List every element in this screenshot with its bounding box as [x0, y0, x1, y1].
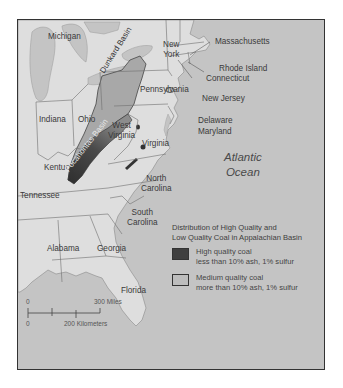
scale-miles-zero: 0 — [26, 298, 30, 305]
state-label-maryland: Maryland — [198, 127, 232, 137]
legend-item-high-quality: High quality coal less than 10% ash, 1% … — [172, 247, 294, 266]
ocean-line2: Ocean — [224, 165, 262, 180]
state-label-north-carolina: NorthCarolina — [141, 174, 172, 194]
state-label-rhode-island: Rhode Island — [219, 64, 267, 74]
legend-item-detail: more than 10% ash, 1% sulfur — [196, 283, 298, 293]
label-line1: New — [163, 40, 179, 50]
state-label-alabama: Alabama — [47, 244, 79, 254]
legend-item-detail: less than 10% ash, 1% sulfur — [196, 257, 294, 267]
map-frame: MichiganIndianaOhioKentuckyTennesseePenn… — [17, 19, 325, 370]
state-label-delaware: Delaware — [198, 116, 233, 126]
state-label-new-york: NewYork — [163, 40, 179, 60]
label-line2: Virginia — [108, 131, 135, 141]
label-line1: North — [141, 174, 172, 184]
state-label-indiana: Indiana — [39, 115, 66, 125]
label-line1: West — [108, 121, 135, 131]
scale-km-label: 200 Kilometers — [64, 320, 107, 327]
legend-item-label: Medium quality coal — [196, 273, 298, 283]
label-line2: Carolina — [127, 218, 158, 228]
state-label-west-virginia: WestVirginia — [108, 121, 135, 141]
scale-km-zero: 0 — [26, 320, 30, 327]
state-label-massachusetts: Massachusetts — [215, 37, 270, 47]
legend-title-line2: Low Quality Coal in Appalachian Basin — [172, 233, 302, 243]
state-label-new-jersey: New Jersey — [202, 94, 245, 104]
legend-title-line1: Distribution of High Quality and — [172, 223, 302, 233]
label-line2: Carolina — [141, 184, 172, 194]
label-line2: York — [163, 50, 179, 60]
label-line1: South — [127, 208, 158, 218]
map-graphic — [18, 20, 324, 369]
ocean-line1: Atlantic — [224, 150, 262, 165]
state-label-south-carolina: SouthCarolina — [127, 208, 158, 228]
scale-miles-label: 300 Miles — [94, 298, 122, 305]
legend-title: Distribution of High Quality and Low Qua… — [172, 223, 302, 242]
state-label-ohio: Ohio — [78, 115, 95, 125]
medium-quality-swatch — [172, 274, 189, 286]
legend-item-medium-quality: Medium quality coal more than 10% ash, 1… — [172, 273, 298, 292]
state-label-pennsylvania: Pennsylvania — [140, 85, 189, 95]
state-label-georgia: Georgia — [97, 244, 126, 254]
state-label-virginia: Virginia — [142, 139, 169, 149]
state-label-connecticut: Connecticut — [206, 74, 249, 84]
legend-item-label: High quality coal — [196, 247, 294, 257]
high-quality-swatch — [172, 248, 189, 260]
state-label-tennessee: Tennessee — [20, 191, 60, 201]
state-label-florida: Florida — [121, 286, 146, 296]
ocean-label: Atlantic Ocean — [224, 150, 262, 180]
state-label-michigan: Michigan — [48, 32, 81, 42]
